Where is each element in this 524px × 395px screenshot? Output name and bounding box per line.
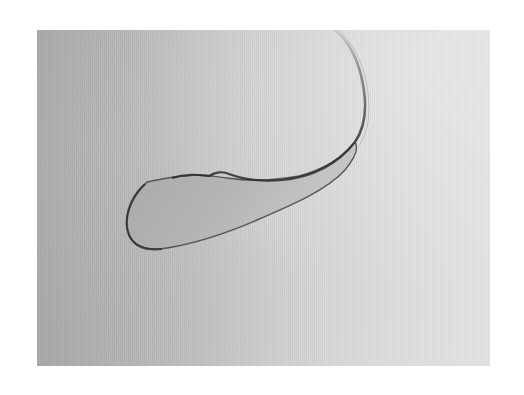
drop-tail: [335, 30, 365, 142]
photograph: [37, 30, 490, 366]
page: [0, 0, 524, 395]
drop-body: [127, 142, 357, 249]
teardrop-shape: [37, 30, 490, 366]
